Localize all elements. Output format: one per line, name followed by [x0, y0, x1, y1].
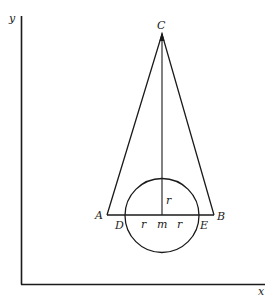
triangle-ACB [107, 34, 214, 215]
label-A: A [94, 209, 103, 222]
apex-marker [160, 32, 165, 41]
radius-label-vertical: r [166, 194, 172, 207]
x-axis-label: x [258, 285, 265, 298]
y-axis-label: y [8, 12, 16, 25]
radius-label-right: r [177, 218, 183, 231]
triangle-circle-diagram: y x C A B D E m r r r [0, 0, 279, 305]
label-B: B [216, 210, 225, 223]
label-m: m [157, 218, 167, 231]
radius-label-left: r [141, 218, 147, 231]
label-E: E [199, 219, 208, 232]
label-C: C [157, 19, 166, 32]
label-D: D [114, 219, 124, 232]
